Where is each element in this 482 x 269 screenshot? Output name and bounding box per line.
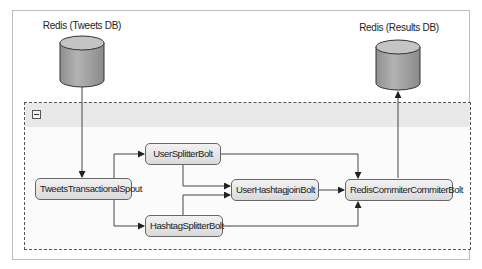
node-user-hashtag-join-bolt[interactable]: UserHashtagjoinBolt [231, 179, 319, 201]
node-hashtag-splitter-bolt[interactable]: HashtagSplitterBolt [145, 215, 223, 237]
node-user-splitter-bolt[interactable]: UserSplitterBolt [145, 143, 221, 165]
connectors [0, 0, 482, 269]
results-db-cylinder-icon [376, 40, 420, 90]
node-tweets-transactional-spout[interactable]: TweetsTransactionalSpout [35, 178, 132, 200]
results-db-label: Redis (Results DB) [359, 22, 439, 33]
node-redis-commiter-bolt[interactable]: RedisCommiterCommiterBolt [345, 179, 453, 201]
tweets-db-label: Redis (Tweets DB) [43, 20, 121, 31]
tweets-db-cylinder-icon [60, 36, 104, 87]
